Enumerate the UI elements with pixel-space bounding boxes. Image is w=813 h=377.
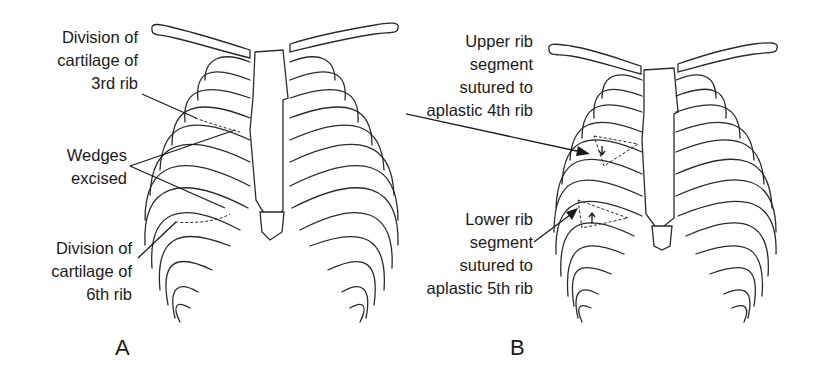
left-ribs (145, 57, 250, 322)
panel-a: Division of cartilage of 3rd rib Wedges … (0, 0, 406, 377)
leader-line-wedge-lower (130, 166, 225, 208)
leader-line-6th (138, 222, 176, 258)
label-wedges-excised: Wedges excised (67, 144, 127, 190)
panel-letter-a: A (115, 336, 130, 360)
arrow-lower-segment (534, 212, 574, 242)
label-division-6th-rib: Division of cartilage of 6th rib (51, 237, 132, 306)
panel-b: Upper rib segment sutured to aplastic 4t… (406, 0, 813, 377)
leader-line-wedge-upper (130, 130, 235, 166)
right-ribs (676, 75, 776, 322)
label-division-3rd-rib: Division of cartilage of 3rd rib (57, 26, 138, 95)
label-lower-rib-segment: Lower rib segment sutured to aplastic 5t… (427, 208, 533, 300)
leader-line-3rd (142, 94, 196, 118)
left-ribs (554, 75, 642, 322)
label-upper-rib-segment: Upper rib segment sutured to aplastic 4t… (427, 30, 533, 122)
arrowhead-upper (576, 146, 590, 156)
panel-letter-b: B (510, 336, 525, 360)
right-ribs (290, 57, 398, 322)
